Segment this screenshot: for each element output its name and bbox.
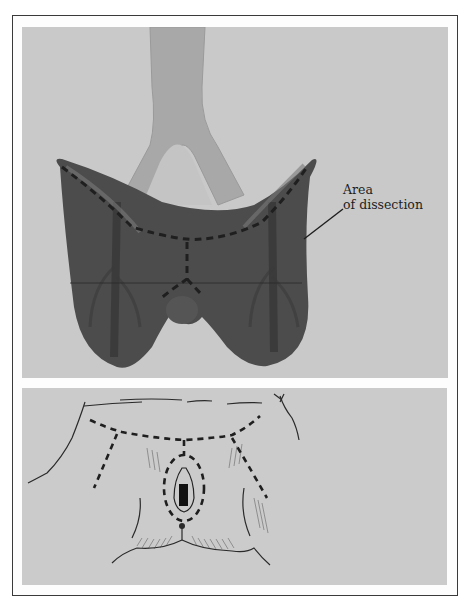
label-line-2: of dissection: [343, 197, 423, 212]
bottom-line-drawing-panel: [22, 388, 447, 585]
label-line-1: Area: [343, 182, 423, 197]
area-of-dissection-label: Area of dissection: [343, 182, 423, 212]
leader-line: [304, 209, 343, 239]
perineum-line-drawing: [22, 388, 447, 585]
